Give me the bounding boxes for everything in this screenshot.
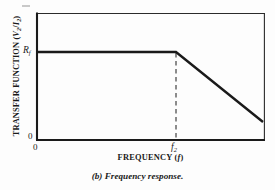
x-axis-tick-label-zero: 0: [33, 142, 38, 152]
y-axis-title-prefix: TRANSFER FUNCTION (: [12, 37, 21, 137]
y-axis-title-denominator-subscript: 2: [16, 19, 22, 22]
y-tick-rf-subscript: f: [29, 49, 31, 56]
transfer-function-curve: [37, 52, 263, 122]
y-axis-tick-label-zero: 0: [28, 131, 33, 141]
axes-lines: [36, 13, 265, 141]
x-axis-tick-label-f2: f2: [171, 142, 177, 153]
y-axis-tick-label-rf: Rf: [23, 45, 31, 56]
y-axis-title-denominator: I: [12, 22, 21, 25]
x-axis-title: FREQUENCY (f): [36, 153, 265, 162]
frequency-response-figure: TRANSFER FUNCTION (V2/I2) FREQUENCY (f) …: [0, 0, 275, 190]
y-axis-title-suffix: ): [12, 16, 21, 19]
x-axis-title-prefix: FREQUENCY (: [118, 153, 178, 162]
y-axis-title-numerator: V: [12, 31, 21, 37]
plot-frame: [37, 13, 265, 141]
x-axis-title-suffix: ): [180, 153, 183, 162]
y-axis-title: TRANSFER FUNCTION (V2/I2): [10, 6, 24, 146]
y-axis-title-numerator-subscript: 2: [16, 28, 22, 31]
figure-caption: (b) Frequency response.: [0, 171, 275, 181]
y-axis-title-slash: /: [12, 25, 21, 27]
x-tick-f2-subscript: 2: [174, 146, 177, 153]
